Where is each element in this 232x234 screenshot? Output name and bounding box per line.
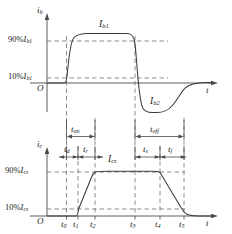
- ics-curve-label: Ics: [108, 155, 117, 165]
- tick-label-t1: t1: [73, 220, 79, 229]
- tick-label-t2: t2: [90, 220, 96, 229]
- ib-90-percent-label: 90%Ib1: [8, 35, 32, 45]
- interval-label-ton: ton: [71, 125, 80, 134]
- interval-label-td: td: [64, 145, 70, 154]
- interval-label-ts: ts: [143, 145, 148, 154]
- tick-label-t3: t3: [130, 220, 136, 229]
- tr-arrow-left: [78, 155, 83, 159]
- ic-y-axis-arrow: [45, 147, 50, 154]
- ib-origin-label: O: [37, 84, 44, 93]
- ib-y-axis-arrow: [45, 13, 50, 20]
- ic-axis-ticks: [67, 216, 185, 220]
- ib1-curve-label: Ib1: [99, 20, 109, 30]
- ib-x-axis-arrow: [211, 81, 218, 86]
- base-current-panel: [30, 13, 218, 116]
- interval-label-tr: tr: [83, 145, 88, 154]
- tick-label-t5: t5: [179, 220, 185, 229]
- ts-arrow-left: [135, 155, 140, 159]
- td-arrow-right: [73, 155, 78, 159]
- ib-x-axis-label: t: [206, 86, 209, 95]
- figure-container: ib 90%Ib1 10%Ib1 O Ib1 Ib2 t ic 90%Ics 1…: [0, 0, 232, 234]
- ic-x-axis-arrow: [211, 214, 218, 219]
- ib-10-percent-label: 10%Ib1: [8, 72, 32, 82]
- ton-arrow-right: [90, 135, 95, 139]
- tr-arrow-right: [98, 155, 103, 159]
- ib-y-axis-label: ib: [37, 6, 43, 15]
- toff-arrow-right: [179, 135, 184, 139]
- switching-waveform-figure: [0, 0, 232, 234]
- ic-x-axis-label: t: [206, 219, 209, 228]
- interval-label-toff: toff: [150, 125, 159, 134]
- ton-arrow-left: [67, 135, 72, 139]
- ts-arrow-right: [155, 155, 160, 159]
- toff-dimension-arrow: [135, 120, 184, 140]
- ib-waveform-curve: [47, 33, 211, 112]
- tick-label-t0: t0: [61, 220, 67, 229]
- ic-10-percent-label: 10%Ics: [5, 203, 28, 213]
- ic-y-axis-label: ic: [37, 140, 42, 149]
- ic-90-percent-label: 90%Ics: [5, 166, 28, 176]
- tick-label-t4: t4: [155, 220, 161, 229]
- tf-arrow-right: [181, 155, 186, 159]
- interval-label-tf: tf: [168, 145, 172, 154]
- td-arrow-left: [59, 155, 64, 159]
- toff-arrow-left: [135, 135, 140, 139]
- ic-origin-label: O: [37, 217, 44, 226]
- ib2-curve-label: Ib2: [150, 97, 160, 107]
- tf-arrow-left: [160, 155, 165, 159]
- collector-current-panel: [30, 118, 218, 220]
